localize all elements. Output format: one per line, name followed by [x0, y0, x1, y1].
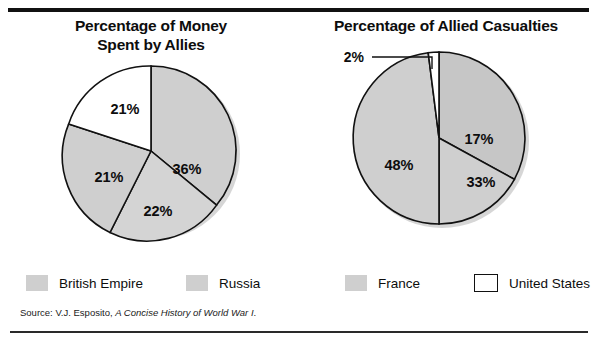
chart-allied-casualties: Percentage of Allied Casualties 2% 17% 3…: [301, 16, 591, 264]
pie-label-21-france: 21%: [94, 169, 123, 185]
legend-swatch-british-empire: [26, 275, 48, 291]
pie-label-17: 17%: [464, 131, 493, 147]
chart-title-casualties: Percentage of Allied Casualties: [301, 16, 591, 35]
legend-item-british-empire[interactable]: British Empire: [26, 272, 143, 294]
source-note: Source: V.J. Esposito, A Concise History…: [20, 307, 256, 318]
legend-item-france[interactable]: France: [345, 272, 420, 294]
legend: British Empire Russia France United Stat…: [0, 272, 597, 298]
pie-label-21-us: 21%: [110, 101, 139, 117]
pie-label-2: 2%: [344, 49, 365, 65]
source-title: A Concise History of World War I: [115, 307, 253, 318]
pie-slice-france[interactable]: [353, 53, 439, 224]
pie-label-36: 36%: [172, 161, 201, 177]
pie-label-33: 33%: [466, 174, 495, 190]
legend-swatch-france: [345, 275, 367, 291]
bottom-rule: [10, 331, 588, 333]
pie-label-22: 22%: [143, 203, 172, 219]
legend-swatch-russia: [186, 275, 208, 291]
top-rule: [8, 8, 589, 12]
pie-chart-money: 36% 22% 21% 21%: [6, 54, 296, 249]
legend-label-russia: Russia: [219, 276, 260, 291]
pie-chart-casualties: 2% 17% 33% 48%: [301, 35, 591, 230]
figure-page: Percentage of Money Spent by Allies 36% …: [0, 0, 597, 345]
pie-label-48: 48%: [384, 157, 413, 173]
source-suffix: .: [254, 307, 257, 318]
chart-title-money: Percentage of Money Spent by Allies: [6, 16, 296, 54]
pie-wrap-money: 36% 22% 21% 21%: [6, 54, 296, 249]
legend-label-united-states: United States: [509, 276, 590, 291]
legend-label-france: France: [378, 276, 420, 291]
legend-item-russia[interactable]: Russia: [186, 272, 260, 294]
chart-money-spent: Percentage of Money Spent by Allies 36% …: [6, 16, 296, 264]
legend-label-british-empire: British Empire: [59, 276, 143, 291]
pie-wrap-casualties: 2% 17% 33% 48%: [301, 35, 591, 230]
source-prefix: Source: V.J. Esposito,: [20, 307, 115, 318]
legend-swatch-united-states: [474, 274, 498, 292]
legend-item-united-states[interactable]: United States: [474, 272, 590, 294]
